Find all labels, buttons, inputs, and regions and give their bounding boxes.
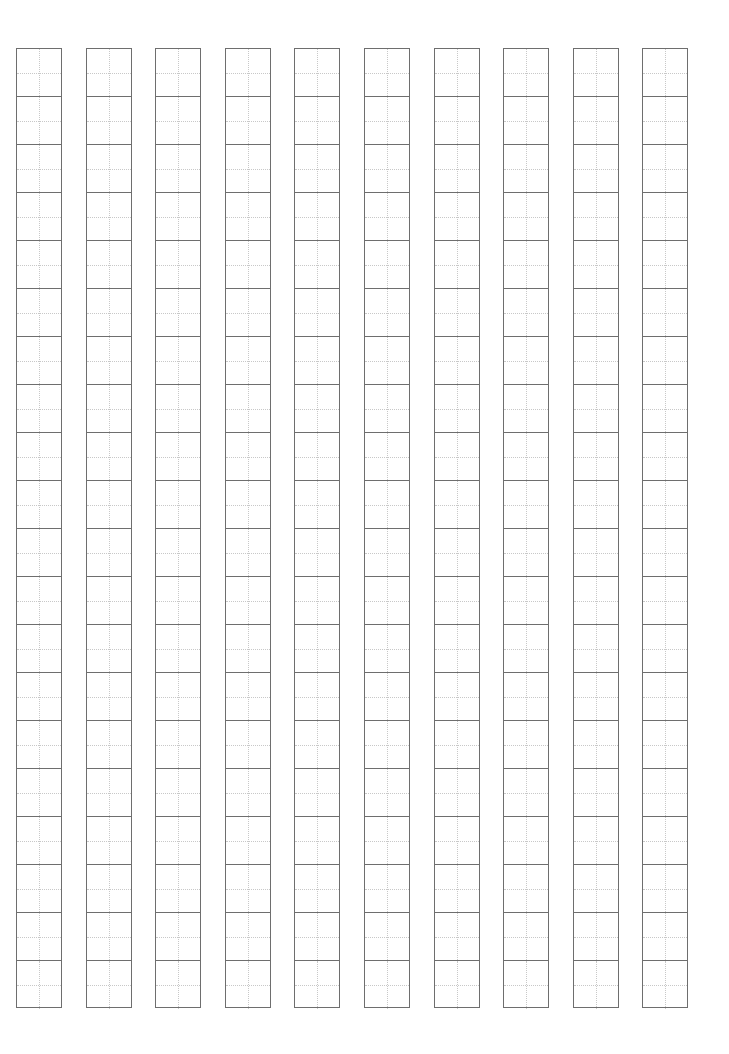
horizontal-guide-line [87,265,131,266]
practice-cell [504,145,548,193]
horizontal-guide-line [156,169,200,170]
horizontal-guide-line [435,457,479,458]
practice-cell [295,577,339,625]
horizontal-guide-line [17,985,61,986]
horizontal-guide-line [435,649,479,650]
horizontal-guide-line [156,409,200,410]
practice-cell [226,433,270,481]
horizontal-guide-line [17,121,61,122]
horizontal-guide-line [87,361,131,362]
horizontal-guide-line [574,265,618,266]
practice-cell [87,385,131,433]
horizontal-guide-line [295,121,339,122]
horizontal-guide-line [504,73,548,74]
practice-column [155,48,201,1008]
practice-cell [435,865,479,913]
horizontal-guide-line [295,409,339,410]
horizontal-guide-line [365,265,409,266]
horizontal-guide-line [504,649,548,650]
horizontal-guide-line [156,985,200,986]
horizontal-guide-line [365,121,409,122]
horizontal-guide-line [365,409,409,410]
horizontal-guide-line [574,745,618,746]
horizontal-guide-line [504,121,548,122]
horizontal-guide-line [295,601,339,602]
practice-cell [574,289,618,337]
practice-cell [156,865,200,913]
practice-cell [156,721,200,769]
horizontal-guide-line [365,313,409,314]
practice-cell [226,721,270,769]
practice-cell [17,577,61,625]
horizontal-guide-line [365,601,409,602]
practice-cell [574,241,618,289]
horizontal-guide-line [17,793,61,794]
practice-cell [643,817,687,865]
practice-cell [643,97,687,145]
practice-cell [365,49,409,97]
practice-cell [87,769,131,817]
practice-cell [295,241,339,289]
practice-cell [295,145,339,193]
horizontal-guide-line [643,409,687,410]
practice-cell [17,49,61,97]
horizontal-guide-line [156,121,200,122]
horizontal-guide-line [643,457,687,458]
practice-cell [226,97,270,145]
practice-cell [17,385,61,433]
horizontal-guide-line [17,745,61,746]
horizontal-guide-line [295,745,339,746]
horizontal-guide-line [17,841,61,842]
practice-cell [87,97,131,145]
horizontal-guide-line [574,793,618,794]
horizontal-guide-line [295,265,339,266]
horizontal-guide-line [226,457,270,458]
horizontal-guide-line [574,985,618,986]
practice-cell [643,577,687,625]
practice-cell [226,817,270,865]
horizontal-guide-line [435,121,479,122]
horizontal-guide-line [504,505,548,506]
practice-cell [17,529,61,577]
practice-cell [435,337,479,385]
practice-cell [295,961,339,1009]
horizontal-guide-line [643,505,687,506]
horizontal-guide-line [87,793,131,794]
horizontal-guide-line [156,745,200,746]
practice-cell [295,385,339,433]
horizontal-guide-line [504,457,548,458]
practice-cell [365,337,409,385]
horizontal-guide-line [17,889,61,890]
practice-cell [17,769,61,817]
horizontal-guide-line [17,697,61,698]
practice-cell [365,193,409,241]
practice-cell [574,817,618,865]
practice-cell [295,337,339,385]
practice-cell [574,865,618,913]
horizontal-guide-line [574,457,618,458]
practice-cell [226,337,270,385]
horizontal-guide-line [365,745,409,746]
horizontal-guide-line [435,505,479,506]
practice-cell [17,193,61,241]
practice-cell [504,289,548,337]
practice-cell [435,49,479,97]
practice-cell [643,721,687,769]
horizontal-guide-line [156,457,200,458]
practice-cell [643,289,687,337]
practice-cell [643,145,687,193]
horizontal-guide-line [643,217,687,218]
horizontal-guide-line [87,745,131,746]
horizontal-guide-line [504,793,548,794]
horizontal-guide-line [295,73,339,74]
horizontal-guide-line [17,937,61,938]
horizontal-guide-line [226,169,270,170]
practice-cell [156,529,200,577]
horizontal-guide-line [435,169,479,170]
horizontal-guide-line [226,313,270,314]
horizontal-guide-line [87,841,131,842]
horizontal-guide-line [504,361,548,362]
horizontal-guide-line [643,985,687,986]
horizontal-guide-line [295,505,339,506]
practice-cell [87,913,131,961]
